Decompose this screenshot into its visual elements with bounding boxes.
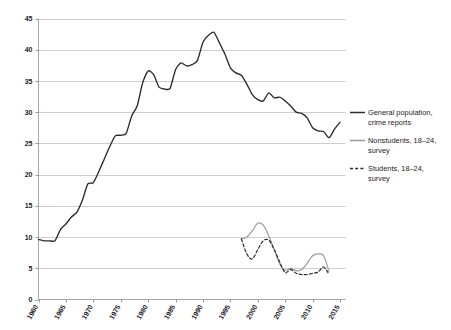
y-tick-label-5: 5 xyxy=(29,265,33,272)
series-line-nonstudents xyxy=(241,223,329,271)
y-tick-label-0: 0 xyxy=(29,296,33,303)
legend-entry-0-line1: General population, xyxy=(368,108,433,117)
x-axis-tick-labels: 1960196519701975198019851990199520002005… xyxy=(26,303,341,320)
legend: General population, crime reports Nonstu… xyxy=(350,108,436,183)
x-tick-label-2010: 2010 xyxy=(300,303,314,320)
legend-entry-2-line2: survey xyxy=(368,174,390,183)
x-tick-label-2005: 2005 xyxy=(272,303,286,320)
y-tick-label-45: 45 xyxy=(25,15,33,22)
y-tick-label-25: 25 xyxy=(25,140,33,147)
y-tick-label-10: 10 xyxy=(25,234,33,241)
chart-container: 051015202530354045 196019651970197519801… xyxy=(0,0,451,330)
x-tick-label-2015: 2015 xyxy=(327,303,341,320)
legend-entry-1-line1: Nonstudents, 18–24, xyxy=(368,136,436,145)
legend-entry-2-line1: Students, 18–24, xyxy=(368,164,424,173)
x-tick-label-1995: 1995 xyxy=(217,303,231,320)
legend-entry-0-line2: crime reports xyxy=(368,118,411,127)
x-tick-label-1960: 1960 xyxy=(26,303,40,320)
axis-tickmarks xyxy=(36,20,341,303)
y-tick-label-40: 40 xyxy=(25,46,33,53)
gridlines xyxy=(39,20,346,269)
legend-entry-1-line2: survey xyxy=(368,146,390,155)
series-line-students xyxy=(241,239,329,275)
x-tick-label-1980: 1980 xyxy=(135,303,149,320)
y-tick-label-20: 20 xyxy=(25,171,33,178)
line-chart: 051015202530354045 196019651970197519801… xyxy=(0,0,451,330)
y-tick-label-15: 15 xyxy=(25,202,33,209)
y-axis-tick-labels: 051015202530354045 xyxy=(25,15,33,303)
x-tick-label-2000: 2000 xyxy=(245,303,259,320)
x-tick-label-1975: 1975 xyxy=(108,303,122,320)
x-tick-label-1985: 1985 xyxy=(163,303,177,320)
series-line-general-population xyxy=(39,32,341,241)
y-tick-label-35: 35 xyxy=(25,78,33,85)
y-tick-label-30: 30 xyxy=(25,109,33,116)
x-tick-label-1970: 1970 xyxy=(80,303,94,320)
x-tick-label-1990: 1990 xyxy=(190,303,204,320)
x-tick-label-1965: 1965 xyxy=(53,303,67,320)
